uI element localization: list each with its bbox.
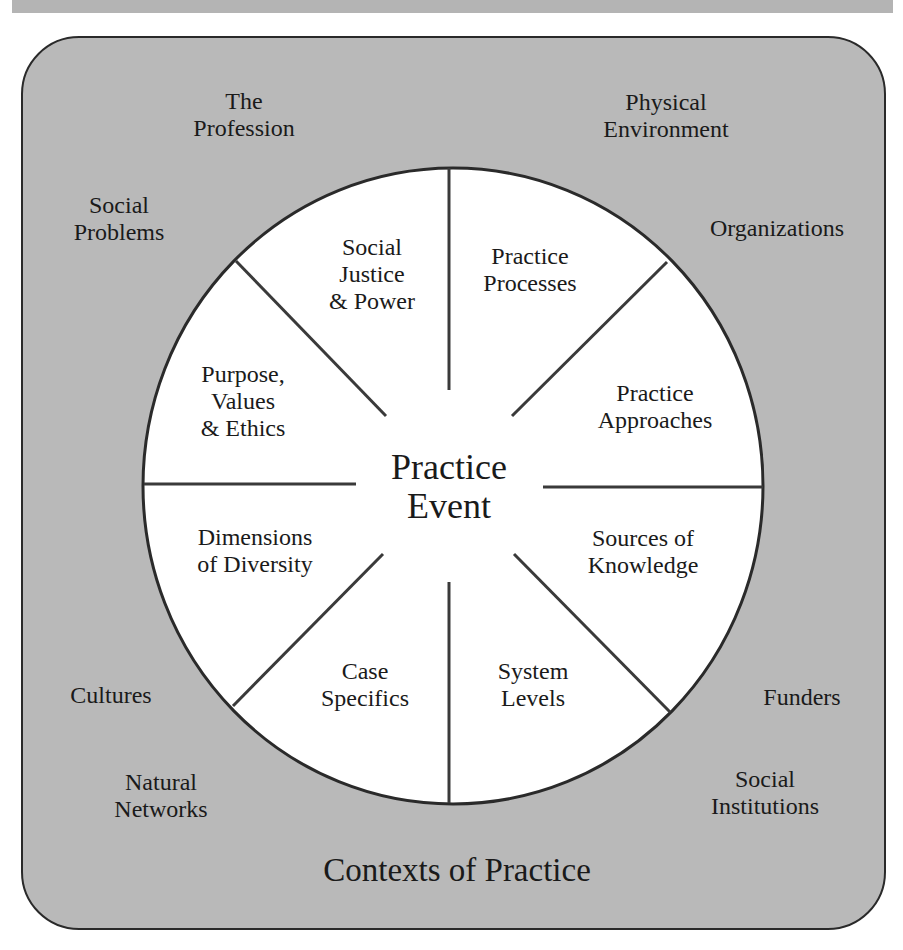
segment-social-justice-power: Social Justice & Power: [329, 234, 415, 315]
segment-purpose-values-ethics: Purpose, Values & Ethics: [201, 361, 286, 442]
box-title-contexts-of-practice: Contexts of Practice: [323, 852, 591, 889]
segment-dimensions-of-diversity: Dimensions of Diversity: [197, 524, 312, 578]
context-funders: Funders: [763, 684, 840, 711]
segment-sources-of-knowledge: Sources of Knowledge: [588, 525, 699, 579]
segment-case-specifics: Case Specifics: [321, 658, 409, 712]
context-the-profession: The Profession: [193, 88, 294, 142]
context-organizations: Organizations: [710, 215, 844, 242]
center-practice-event: Practice Event: [391, 448, 507, 526]
context-social-problems: Social Problems: [74, 192, 165, 246]
segment-practice-processes: Practice Processes: [483, 243, 576, 297]
context-cultures: Cultures: [70, 682, 151, 709]
segment-practice-approaches: Practice Approaches: [598, 380, 713, 434]
context-social-institutions: Social Institutions: [711, 766, 819, 820]
segment-system-levels: System Levels: [498, 658, 569, 712]
context-natural-networks: Natural Networks: [114, 769, 207, 823]
context-physical-environment: Physical Environment: [603, 89, 728, 143]
